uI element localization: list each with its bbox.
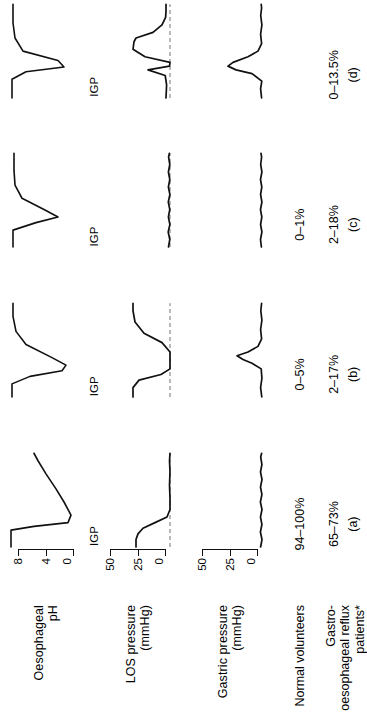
panel-b-oesophageal-ph xyxy=(0,300,92,450)
value-reflux-patients-d: 0–13.5% xyxy=(324,50,344,99)
axis-tick-label: 4 xyxy=(40,558,52,564)
row-label-line2: (mmHg) xyxy=(138,605,152,683)
trace-gastric-b xyxy=(190,304,270,398)
value-reflux-patients-a: 65–73% xyxy=(324,501,344,547)
trace-ph-a xyxy=(6,453,86,547)
cell-a: 65–73% (a) xyxy=(324,449,367,599)
axis-tick-label: 50 xyxy=(196,558,208,571)
axis-tick xyxy=(46,549,47,556)
row-label-line1: Oesophageal xyxy=(32,605,46,680)
data-row-label-reflux-patients: Gastro-oesophageal reflux patients* xyxy=(324,599,367,717)
axis-tick-label: 0 xyxy=(245,558,257,564)
axis-tick xyxy=(138,549,139,556)
trace-ph-d xyxy=(6,4,86,98)
data-row-label-normal-volunteers: Normal volunteers xyxy=(276,599,324,717)
axis-tick-label: 0 xyxy=(153,558,165,564)
igp-label: IGP xyxy=(88,376,100,396)
panel-label-d: (d) xyxy=(344,67,360,82)
cell-c: 2–18% (c) xyxy=(324,150,367,300)
trace-gastric-a xyxy=(190,453,270,547)
data-row-label-line2: volunteers xyxy=(293,605,307,663)
row-label-line1: LOS pressure xyxy=(124,605,138,683)
row-label-los-pressure: LOS pressure (mmHg) xyxy=(92,599,184,717)
axis-tick-label: 8 xyxy=(12,558,24,564)
trace-gastric-d xyxy=(190,4,270,98)
axis-los-a: 0 25 50 xyxy=(102,549,174,583)
panel-label-b: (b) xyxy=(344,367,360,382)
axis-ph-d xyxy=(10,100,82,134)
cell-d: 0–13.5% (d) xyxy=(324,0,367,150)
axis-ph-a: 0 4 8 xyxy=(10,549,82,583)
row-label-oesophageal-ph: Oesophageal pH xyxy=(0,599,92,717)
axis-gastric-d xyxy=(194,100,266,134)
panel-d-gastric-pressure xyxy=(184,0,276,150)
figure-root: Oesophageal pH 0 4 8 xyxy=(0,0,367,717)
panel-a-oesophageal-ph: 0 4 8 xyxy=(0,449,92,599)
axis-tick-label: 25 xyxy=(132,558,144,571)
panel-c-oesophageal-ph xyxy=(0,150,92,300)
row-label-gastric-pressure: Gastric pressure (mmHg) xyxy=(184,599,276,717)
figure-inner: Oesophageal pH 0 4 8 xyxy=(0,0,367,717)
axis-tick xyxy=(257,549,258,556)
axis-tick xyxy=(202,549,203,556)
value-reflux-patients-c: 2–18% xyxy=(324,205,344,244)
panel-a-gastric-pressure: 0 25 50 xyxy=(184,449,276,599)
axis-tick-label: 50 xyxy=(104,558,116,571)
trace-gastric-c xyxy=(190,154,270,248)
axis-gastric-a: 0 25 50 xyxy=(194,549,266,583)
axis-tick-label: 0 xyxy=(61,558,73,564)
panel-d-oesophageal-ph xyxy=(0,0,92,150)
axis-tick xyxy=(230,549,231,556)
axis-tick-label: 25 xyxy=(224,558,236,571)
data-row-label-line1: Normal xyxy=(293,666,307,706)
trace-los-a xyxy=(98,453,178,547)
trace-los-b xyxy=(98,304,178,398)
trace-ph-b xyxy=(6,304,86,398)
figure-rotation-wrapper: Oesophageal pH 0 4 8 xyxy=(0,0,367,717)
axis-tick xyxy=(18,549,19,556)
figure-grid: Oesophageal pH 0 4 8 xyxy=(0,0,367,717)
value-reflux-patients-b: 2–17% xyxy=(324,355,344,394)
row-label-line2: (mmHg) xyxy=(230,605,244,698)
value-normal-volunteers-a: 94–100% xyxy=(276,449,324,599)
value-normal-volunteers-d xyxy=(276,0,324,150)
axis-ph-c xyxy=(10,250,82,284)
axis-tick xyxy=(165,549,166,556)
panel-c-gastric-pressure xyxy=(184,150,276,300)
trace-los-d xyxy=(98,4,178,98)
row-label-line1: Gastric pressure xyxy=(216,605,230,698)
axis-gastric-c xyxy=(194,250,266,284)
panel-label-c: (c) xyxy=(344,217,360,232)
trace-ph-c xyxy=(6,154,86,248)
igp-label: IGP xyxy=(88,227,100,247)
trace-los-c xyxy=(98,154,178,248)
axis-ph-b xyxy=(10,399,82,433)
igp-label: IGP xyxy=(88,77,100,97)
panel-d-los-pressure: IGP xyxy=(92,0,184,150)
igp-label: IGP xyxy=(88,526,100,546)
axis-tick xyxy=(110,549,111,556)
panel-b-los-pressure: IGP xyxy=(92,300,184,450)
axis-los-d xyxy=(102,100,174,134)
axis-los-c xyxy=(102,250,174,284)
panel-c-los-pressure: IGP xyxy=(92,150,184,300)
axis-los-b xyxy=(102,399,174,433)
value-normal-volunteers-b: 0–5% xyxy=(276,300,324,450)
panel-a-los-pressure: 0 25 50 IGP xyxy=(92,449,184,599)
axis-tick xyxy=(73,549,74,556)
axis-gastric-b xyxy=(194,399,266,433)
value-normal-volunteers-c: 0–1% xyxy=(276,150,324,300)
panel-b-gastric-pressure xyxy=(184,300,276,450)
row-label-line2: pH xyxy=(46,605,60,680)
panel-label-a: (a) xyxy=(344,516,360,531)
cell-b: 2–17% (b) xyxy=(324,300,367,450)
